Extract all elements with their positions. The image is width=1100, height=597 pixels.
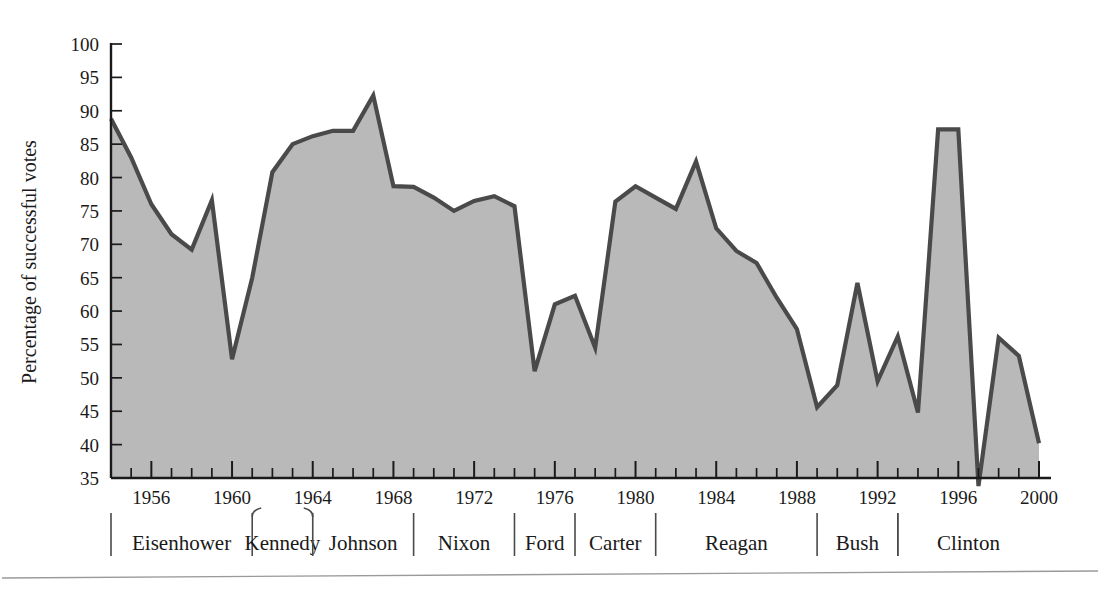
- x-tick-label-1996: 1996: [939, 487, 977, 508]
- president-label: Johnson: [329, 531, 398, 555]
- president-label: Bush: [836, 531, 880, 555]
- x-tick-label-1984: 1984: [697, 487, 736, 508]
- x-tick-label-1988: 1988: [778, 487, 816, 508]
- y-tick-label-40: 40: [80, 435, 99, 456]
- y-axis-title: Percentage of successful votes: [18, 140, 41, 384]
- president-label: Clinton: [937, 531, 1001, 555]
- y-tick-label-35: 35: [80, 468, 99, 489]
- x-tick-label-1968: 1968: [374, 487, 412, 508]
- y-tick-label-45: 45: [80, 401, 99, 422]
- y-tick-label-95: 95: [80, 67, 99, 88]
- x-tick-label-1956: 1956: [132, 487, 170, 508]
- x-tick-label-1964: 1964: [294, 487, 333, 508]
- president-label: Reagan: [705, 531, 768, 555]
- x-tick-label-1960: 1960: [213, 487, 251, 508]
- y-tick-label-65: 65: [80, 268, 99, 289]
- y-tick-label-75: 75: [80, 201, 99, 222]
- president-label: Carter: [589, 531, 641, 555]
- y-tick-label-55: 55: [80, 334, 99, 355]
- y-tick-label-50: 50: [80, 368, 99, 389]
- chart-figure: 35404550556065707580859095100 1956196019…: [0, 0, 1100, 597]
- y-tick-label-100: 100: [71, 34, 100, 55]
- x-tick-label-2000: 2000: [1020, 487, 1058, 508]
- y-tick-label-70: 70: [80, 234, 99, 255]
- x-tick-label-1972: 1972: [455, 487, 493, 508]
- x-tick-label-1980: 1980: [617, 487, 655, 508]
- president-label: Nixon: [438, 531, 491, 555]
- y-tick-label-60: 60: [80, 301, 99, 322]
- x-tick-label-1976: 1976: [536, 487, 574, 508]
- president-label: Eisenhower: [132, 531, 231, 555]
- presidential-vote-success-area-chart: 35404550556065707580859095100 1956196019…: [0, 0, 1100, 597]
- y-tick-label-90: 90: [80, 101, 99, 122]
- president-label: Kennedy: [245, 531, 321, 555]
- y-tick-label-85: 85: [80, 134, 99, 155]
- x-tick-label-1992: 1992: [859, 487, 897, 508]
- y-tick-label-80: 80: [80, 168, 99, 189]
- president-label: Ford: [525, 531, 565, 555]
